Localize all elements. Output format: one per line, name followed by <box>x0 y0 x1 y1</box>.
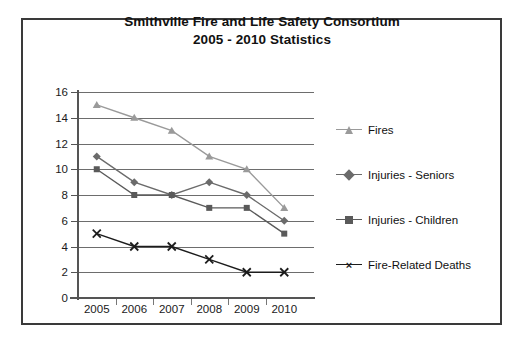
legend-item-injuries-children[interactable]: Injuries - Children <box>336 197 496 242</box>
data-point-marker <box>169 192 175 198</box>
data-point-marker <box>93 101 101 108</box>
data-point-marker <box>93 152 101 160</box>
legend-item-label: Fire-Related Deaths <box>368 259 471 271</box>
data-point-marker <box>243 191 251 199</box>
series-injuries-children <box>94 166 288 236</box>
legend-item-fire-related-deaths[interactable]: ×Fire-Related Deaths <box>336 242 496 287</box>
series-fire-related-deaths <box>93 230 289 277</box>
legend-item-fires[interactable]: Fires <box>336 107 496 152</box>
series-line <box>97 105 285 208</box>
legend-item-label: Injuries - Children <box>368 214 458 226</box>
data-point-marker <box>244 205 250 211</box>
data-point-marker <box>205 152 213 159</box>
data-point-marker <box>94 166 100 172</box>
data-point-marker <box>281 231 287 237</box>
legend-marker-icon <box>336 213 362 227</box>
legend-marker-icon: × <box>336 258 362 272</box>
data-point-marker <box>205 255 213 263</box>
data-point-marker <box>131 192 137 198</box>
legend-marker-x: × <box>345 261 353 269</box>
series-line <box>97 234 285 273</box>
chart-page: Smithville Fire and Life Safety Consorti… <box>0 0 524 345</box>
legend-item-label: Injuries - Seniors <box>368 169 454 181</box>
legend-marker-icon <box>336 168 362 182</box>
legend-item-label: Fires <box>368 124 394 136</box>
data-point-marker <box>130 178 138 186</box>
series-fires <box>93 101 289 211</box>
legend-marker-diamond <box>343 169 354 180</box>
series-injuries-seniors <box>93 152 289 224</box>
legend-marker-square <box>345 216 353 224</box>
data-point-marker <box>206 205 212 211</box>
legend-marker-triangle <box>345 126 353 134</box>
data-point-marker <box>280 217 288 225</box>
data-point-marker <box>93 230 101 238</box>
legend-marker-icon <box>336 123 362 137</box>
data-point-marker <box>205 178 213 186</box>
legend-item-injuries-seniors[interactable]: Injuries - Seniors <box>336 152 496 197</box>
chart-legend: FiresInjuries - SeniorsInjuries - Childr… <box>336 107 496 287</box>
